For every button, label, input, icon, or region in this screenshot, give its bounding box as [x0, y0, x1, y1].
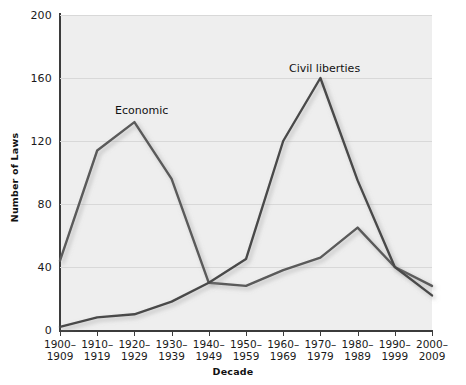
y-axis-title: Number of Laws — [9, 118, 20, 238]
x-axis-title: Decade — [0, 366, 466, 377]
series-layer — [0, 0, 466, 385]
series-annotation-economic: Economic — [115, 104, 168, 117]
line-chart: 04080120160200 1900– 19091910– 19191920–… — [0, 0, 466, 385]
series-annotation-civil-liberties: Civil liberties — [289, 62, 360, 75]
series-line-economic — [60, 122, 432, 286]
